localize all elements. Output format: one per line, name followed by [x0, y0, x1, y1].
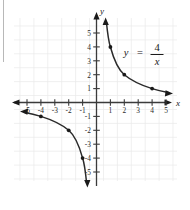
equation-numerator: 4 [154, 42, 160, 53]
equation-annotation: y = 4 x [123, 42, 164, 67]
data-point-2-2 [122, 73, 126, 77]
page-edge-artifact [3, 0, 4, 62]
curve-branch-negative [20, 109, 90, 188]
y-tick-label: 5 [87, 29, 91, 38]
data-point-neg2-neg2 [67, 128, 71, 132]
x-tick-label: 2 [122, 106, 126, 115]
y-tick-label: 2 [87, 71, 91, 80]
graph-figure: -5 -4 -3 -2 -1 1 2 3 4 5 -1 -2 -3 -4 -5 … [0, 0, 190, 210]
data-point-neg4-neg1 [39, 115, 43, 119]
y-tick-label: -2 [85, 126, 91, 135]
y-tick-label: 1 [87, 84, 91, 93]
y-tick-label: -4 [85, 154, 91, 163]
x-axis-label: x [175, 98, 180, 108]
y-tick-label: 4 [87, 43, 91, 52]
y-tick-label: -3 [85, 140, 91, 149]
y-tick-label: -1 [85, 112, 91, 121]
y-axis-label: y [99, 6, 104, 16]
data-point-4-1 [150, 87, 154, 91]
x-tick-label: -3 [52, 106, 58, 115]
x-tick-label: 4 [150, 106, 154, 115]
x-tick-label: -4 [38, 106, 44, 115]
x-tick-label: 1 [109, 106, 113, 115]
y-tick-label: 3 [87, 57, 91, 66]
data-point-1-4 [109, 45, 113, 49]
data-point-neg1-neg4 [81, 156, 85, 160]
y-axis [93, 12, 100, 186]
equation-operator: = [137, 47, 143, 58]
equation-denominator: x [154, 56, 160, 67]
x-tick-label: 3 [136, 106, 140, 115]
x-axis [12, 99, 172, 106]
x-tick-label: 5 [164, 106, 168, 115]
coordinate-plane-svg: -5 -4 -3 -2 -1 1 2 3 4 5 -1 -2 -3 -4 -5 … [0, 0, 190, 210]
x-tick-label: -2 [66, 106, 72, 115]
equation-lhs: y [123, 47, 129, 58]
